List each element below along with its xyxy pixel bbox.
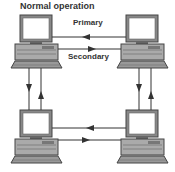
computer-top-left-icon [11, 15, 62, 68]
left-up-link-arrow [38, 68, 44, 110]
right-down-link-arrow [136, 68, 142, 110]
primary-link-arrow [52, 34, 126, 40]
computer-top-right-icon [117, 15, 168, 68]
computer-bottom-right-icon [117, 110, 168, 163]
bottom-left-link-arrow [52, 125, 126, 131]
secondary-link-arrow [58, 46, 121, 52]
computer-bottom-left-icon [11, 110, 62, 163]
network-diagram [0, 0, 175, 172]
right-up-link-arrow [148, 68, 154, 110]
bottom-right-link-arrow [58, 137, 121, 143]
left-down-link-arrow [26, 68, 32, 110]
